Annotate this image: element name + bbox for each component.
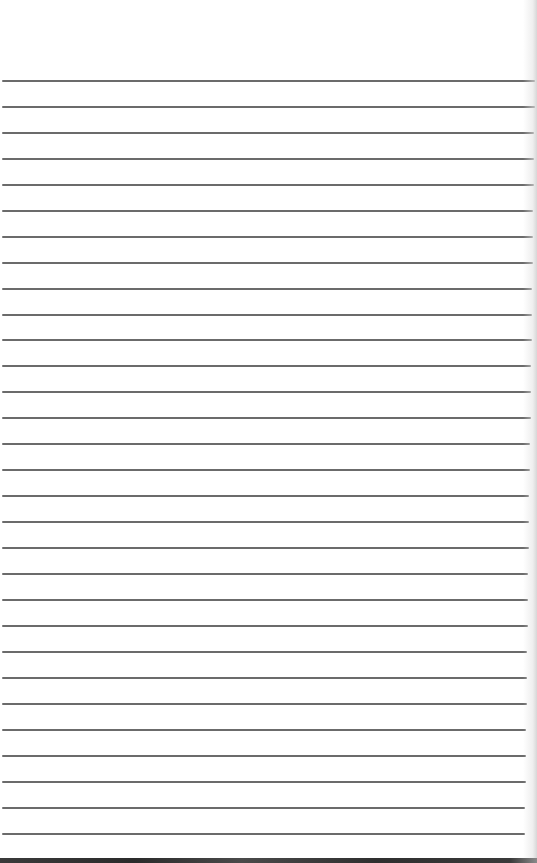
ruled-line [2, 391, 531, 393]
ruled-line [2, 469, 530, 471]
ruled-line [2, 132, 534, 134]
ruled-line [2, 781, 526, 783]
ruled-line [2, 495, 529, 497]
ruled-line [2, 755, 526, 757]
ruled-line [2, 521, 529, 523]
ruled-line [2, 833, 525, 835]
ruled-line [2, 729, 526, 731]
ruled-line [2, 80, 535, 82]
ruled-line [2, 651, 527, 653]
ruled-line [2, 365, 531, 367]
ruled-line [2, 210, 533, 212]
ruled-line [2, 807, 525, 809]
ruled-line [2, 288, 532, 290]
ruled-line [2, 625, 528, 627]
lined-paper-sheet [0, 0, 537, 858]
ruled-line [2, 184, 534, 186]
ruled-line [2, 106, 535, 108]
ruled-line [2, 339, 532, 341]
ruled-line [2, 443, 530, 445]
ruled-line [2, 599, 528, 601]
ruled-line [2, 236, 533, 238]
ruled-line [2, 573, 528, 575]
ruled-line [2, 417, 531, 419]
ruled-line [2, 262, 533, 264]
ruled-line [2, 314, 532, 316]
ruled-line [2, 703, 527, 705]
ruled-line [2, 677, 527, 679]
ruled-line [2, 547, 529, 549]
scanner-bottom-edge [0, 858, 537, 863]
ruled-line [2, 158, 534, 160]
